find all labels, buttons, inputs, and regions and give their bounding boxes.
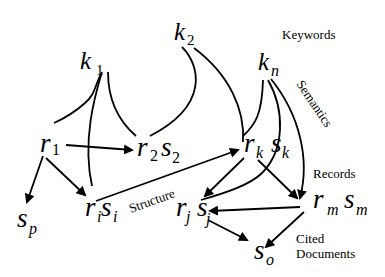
label-structure: Structure (127, 185, 177, 215)
svg-text:i: i (113, 208, 117, 225)
edge-r1-sp (27, 156, 43, 202)
node-rj-sj: r j s j (176, 192, 211, 228)
svg-text:s: s (17, 203, 28, 233)
svg-text:m: m (356, 201, 368, 218)
edge-k2-rk (194, 48, 243, 142)
svg-text:r: r (40, 128, 51, 158)
edge-r1-r2 (66, 145, 132, 150)
diagram-canvas: k 1 k 2 k n r 1 r 2 s 2 r k s k r i s i … (0, 0, 385, 277)
svg-text:k: k (258, 48, 270, 75)
edge-rj-so (208, 220, 247, 240)
label-documents: Documents (296, 246, 355, 261)
svg-text:j: j (184, 208, 191, 226)
svg-text:1: 1 (52, 141, 60, 158)
svg-text:r: r (313, 184, 324, 214)
node-rk-sk: r k s k (244, 128, 290, 161)
svg-text:s: s (344, 184, 355, 214)
edge-rk-rj (205, 158, 244, 196)
node-k2: k 2 (174, 18, 195, 48)
svg-text:s: s (101, 192, 112, 222)
svg-text:k: k (256, 144, 264, 161)
svg-text:s: s (254, 235, 265, 265)
svg-text:2: 2 (150, 147, 158, 164)
label-cited: Cited (296, 231, 325, 246)
node-sp: s p (17, 203, 37, 238)
edge-k1-r2 (108, 72, 136, 136)
label-keywords: Keywords (282, 27, 335, 42)
svg-text:2: 2 (187, 32, 195, 48)
node-r1: r 1 (40, 128, 60, 158)
node-so: s o (254, 235, 274, 268)
edge-rm-rj (210, 207, 300, 211)
node-r2-s2: r 2 s 2 (137, 132, 180, 166)
edge-kn-rj (201, 80, 280, 200)
edge-rk-rm (258, 160, 297, 198)
svg-text:1: 1 (96, 62, 104, 78)
node-kn: k n (258, 48, 279, 79)
node-rm-sm: r m s m (313, 184, 368, 218)
svg-text:k: k (282, 144, 290, 161)
svg-text:m: m (327, 201, 339, 218)
svg-text:r: r (85, 192, 96, 222)
node-k1: k 1 (80, 47, 104, 78)
label-semantics: Semantics (294, 77, 336, 130)
svg-text:j: j (204, 210, 211, 228)
edge-r1-ri (46, 158, 85, 195)
svg-text:r: r (137, 132, 148, 162)
diagram-svg: k 1 k 2 k n r 1 r 2 s 2 r k s k r i s i … (0, 0, 385, 277)
svg-text:2: 2 (172, 149, 180, 166)
svg-text:r: r (244, 128, 255, 158)
label-records: Records (313, 166, 356, 181)
node-ri-si: r i s i (85, 192, 117, 225)
svg-text:s: s (161, 132, 172, 162)
svg-text:p: p (28, 220, 37, 238)
edge-k2-r2 (150, 47, 196, 136)
svg-text:n: n (271, 62, 279, 79)
svg-text:k: k (174, 18, 186, 45)
svg-text:k: k (80, 47, 92, 74)
svg-text:o: o (266, 251, 274, 268)
svg-text:s: s (271, 128, 282, 158)
